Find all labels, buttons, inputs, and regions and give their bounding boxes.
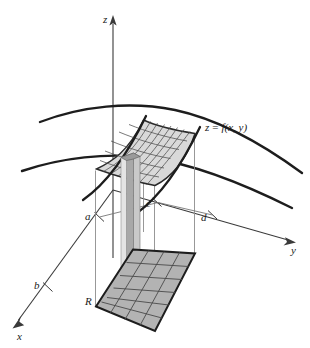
- surface-equation-label: z=f(x, y): [205, 122, 247, 133]
- z-axis-label: z: [103, 14, 107, 25]
- z-axis-arrowhead: [109, 15, 116, 26]
- base-region-R: [96, 250, 195, 332]
- x-axis-arrowhead: [13, 316, 25, 329]
- equation-z-term: z: [205, 121, 209, 133]
- equation-f-term: f(x, y): [222, 121, 248, 133]
- surface-integral-figure: z y x a b c d R z=f(x, y): [0, 0, 310, 348]
- bound-b-label: b: [34, 280, 40, 291]
- x-axis-label: x: [17, 331, 22, 342]
- region-projection-lines: [100, 203, 213, 218]
- bound-c-label: c: [146, 198, 151, 209]
- figure-canvas: [0, 0, 310, 348]
- y-axis-label: y: [291, 245, 296, 256]
- surface-patch: [97, 120, 196, 186]
- equation-equals-sign: =: [212, 121, 218, 133]
- bound-d-label: d: [201, 212, 207, 223]
- tick-b: [43, 283, 53, 292]
- bound-a-label: a: [85, 211, 91, 222]
- region-label-R: R: [85, 296, 92, 307]
- z-axis: [109, 15, 116, 258]
